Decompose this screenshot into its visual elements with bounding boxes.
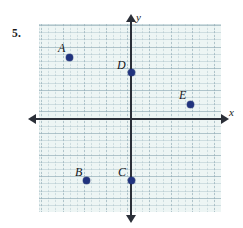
plot-point-label-c: C: [118, 166, 126, 178]
plot-point-label-d: D: [117, 59, 126, 71]
x-axis-arrow-left-icon: [28, 114, 36, 124]
x-axis-arrow-right-icon: [221, 114, 229, 124]
y-axis-arrow-up-icon: [126, 14, 136, 22]
plot-point-d[interactable]: [128, 69, 135, 76]
plot-point-b[interactable]: [83, 177, 90, 184]
plot-point-c[interactable]: [128, 177, 135, 184]
plot-point-label-e: E: [179, 89, 186, 101]
plot-point-a[interactable]: [66, 54, 73, 61]
plot-point-label-b: B: [75, 166, 82, 178]
figure-canvas: 5. x y ABCDE: [0, 0, 243, 228]
x-axis-label: x: [229, 107, 234, 118]
plot-point-e[interactable]: [187, 101, 194, 108]
y-axis-label: y: [136, 12, 141, 23]
y-axis-arrow-down-icon: [126, 215, 136, 223]
problem-number-label: 5.: [12, 28, 21, 40]
y-axis-line: [130, 21, 132, 218]
plot-point-label-a: A: [58, 42, 65, 54]
